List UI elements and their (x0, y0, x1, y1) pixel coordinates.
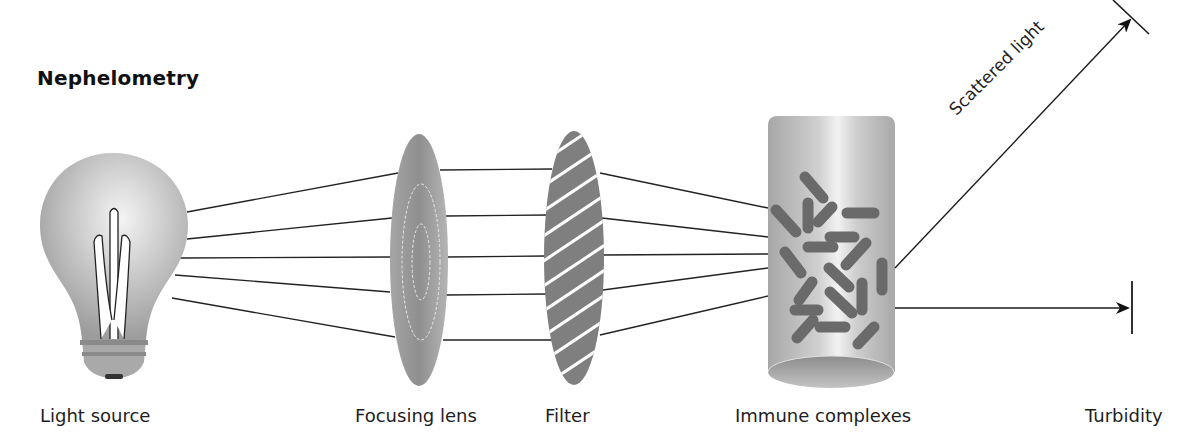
filter-label: Filter (545, 405, 590, 426)
turbidity-arrow (895, 281, 1132, 334)
sample-cuvette-icon (768, 116, 895, 388)
light-rays-lens-to-filter (440, 169, 552, 340)
focusing-lens-icon (390, 134, 448, 386)
light-source-label: Light source (40, 405, 150, 426)
light-rays-filter-to-sample (600, 173, 768, 335)
filter-icon (530, 110, 620, 445)
immune-complexes-label: Immune complexes (735, 405, 911, 426)
nephelometry-diagram (0, 0, 1201, 448)
turbidity-label: Turbidity (1085, 405, 1163, 426)
focusing-lens-label: Focusing lens (355, 405, 477, 426)
light-rays-source-to-lens (172, 173, 398, 337)
light-bulb-icon (40, 153, 188, 379)
